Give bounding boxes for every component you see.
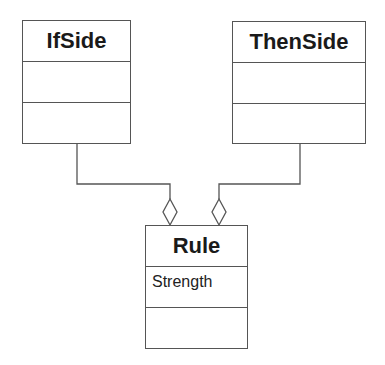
class-rule[interactable]: Rule Strength <box>145 225 248 349</box>
class-name: Rule <box>146 226 247 267</box>
attributes-compartment: Strength <box>146 267 247 308</box>
attributes-compartment <box>23 62 130 103</box>
attribute-strength: Strength <box>152 273 212 290</box>
ifside-aggregation-diamond-icon <box>163 199 177 225</box>
class-thenside[interactable]: ThenSide <box>232 21 366 144</box>
ifside-rule-aggregation-line <box>77 143 170 199</box>
class-ifside[interactable]: IfSide <box>22 20 131 144</box>
attributes-compartment <box>233 63 365 104</box>
class-name: IfSide <box>23 21 130 62</box>
thenside-aggregation-diamond-icon <box>212 199 226 225</box>
class-name: ThenSide <box>233 22 365 63</box>
thenside-rule-aggregation-line <box>219 143 300 199</box>
